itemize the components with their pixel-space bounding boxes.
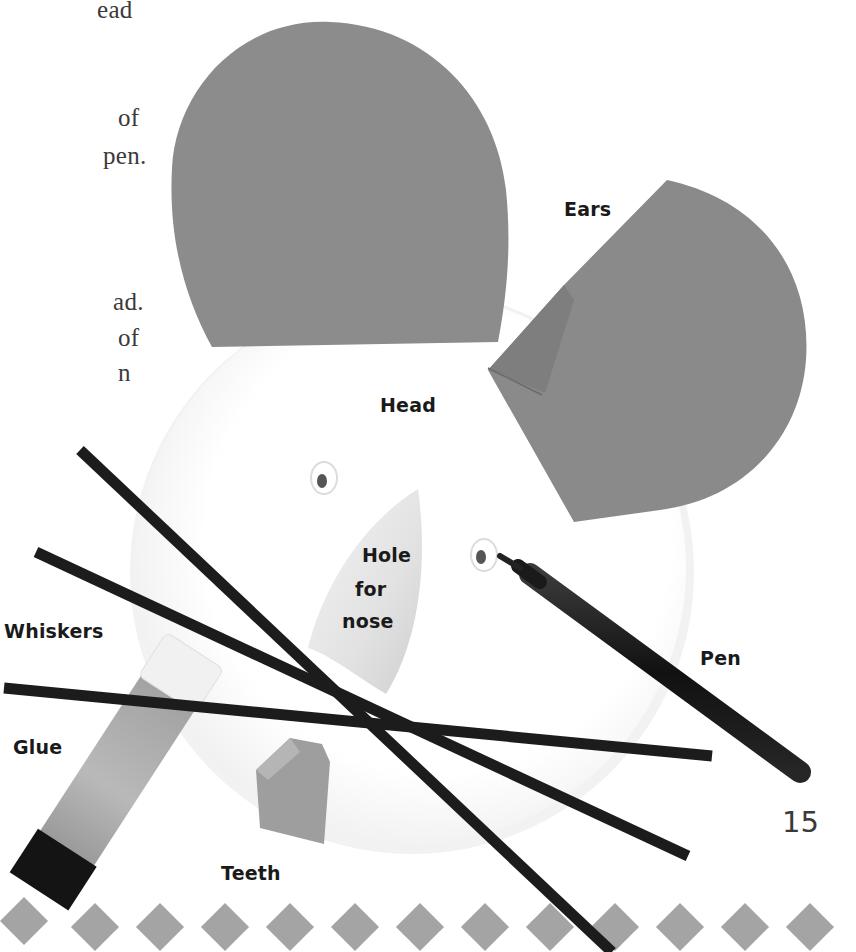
left-ear-card	[171, 22, 508, 347]
label-teeth: Teeth	[221, 862, 281, 884]
label-ears: Ears	[564, 198, 611, 220]
label-hole-line3: nose	[342, 610, 394, 632]
glue-stick	[10, 632, 225, 911]
body-text-fragment: of	[118, 104, 139, 132]
label-whiskers: Whiskers	[4, 620, 104, 642]
diamond-border	[0, 897, 834, 951]
label-pen: Pen	[700, 647, 741, 669]
right-eye	[471, 539, 497, 571]
label-glue: Glue	[13, 736, 62, 758]
label-head: Head	[380, 394, 436, 416]
body-text-fragment: n	[118, 359, 131, 387]
body-text-fragment: ead	[97, 0, 133, 24]
body-text-fragment: ad.	[113, 288, 144, 316]
label-hole-line2: for	[355, 578, 386, 600]
left-eye	[311, 462, 337, 494]
label-hole-line1: Hole	[362, 544, 411, 566]
body-text-fragment: of	[118, 324, 139, 352]
page-number: 15	[782, 805, 819, 839]
body-text-fragment: pen.	[103, 142, 147, 170]
